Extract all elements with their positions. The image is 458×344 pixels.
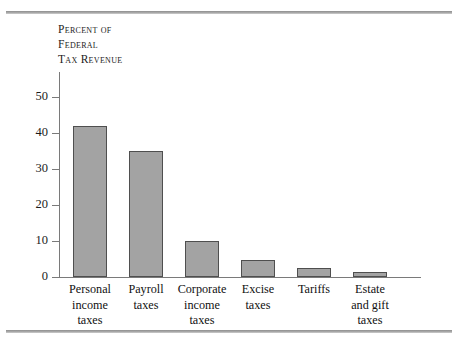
- x-axis-label: Estateand gifttaxes: [334, 282, 406, 329]
- y-axis-tick: [52, 97, 60, 98]
- x-axis-label-line: Estate: [334, 282, 406, 298]
- y-axis-tick-label: 50: [4, 89, 48, 104]
- bar: [73, 126, 107, 277]
- bar: [241, 260, 275, 277]
- x-axis-label-line: taxes: [334, 313, 406, 329]
- y-axis-tick: [52, 277, 60, 278]
- bar: [185, 241, 219, 277]
- bar: [353, 272, 387, 277]
- x-axis-label-line: and gift: [334, 298, 406, 314]
- y-axis-tick-label: 30: [4, 161, 48, 176]
- x-axis-label-line: taxes: [54, 313, 126, 329]
- y-axis-tick-label: 10: [4, 233, 48, 248]
- bar: [297, 268, 331, 277]
- bar: [129, 151, 163, 277]
- x-axis-line: [59, 277, 421, 278]
- y-axis-tick: [52, 133, 60, 134]
- bar-chart-plot: 01020304050 PersonalincometaxesPayrollta…: [0, 0, 458, 344]
- x-axis-label-line: taxes: [222, 298, 294, 314]
- y-axis-tick: [52, 169, 60, 170]
- y-axis-tick-label: 0: [4, 269, 48, 284]
- y-axis-tick-label: 20: [4, 197, 48, 212]
- y-axis-tick: [52, 241, 60, 242]
- x-axis-label-line: taxes: [166, 313, 238, 329]
- y-axis-tick-label: 40: [4, 125, 48, 140]
- y-axis-tick: [52, 205, 60, 206]
- y-axis-line: [59, 72, 60, 278]
- figure-panel: Percent of Federal Tax Revenue 010203040…: [0, 0, 458, 344]
